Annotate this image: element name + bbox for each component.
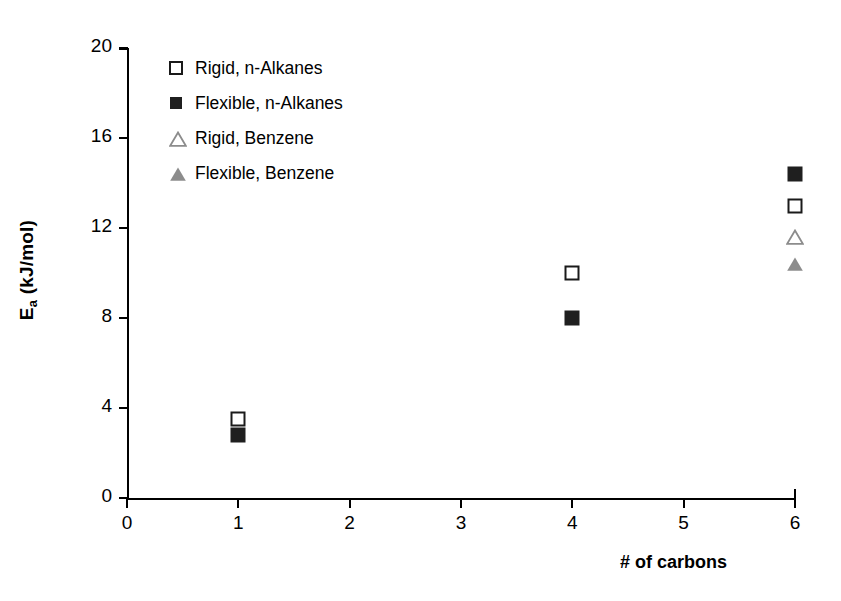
open-triangle-marker bbox=[169, 131, 184, 144]
open-triangle-marker bbox=[786, 229, 804, 245]
data-point bbox=[788, 167, 803, 182]
y-axis-tick: 4 bbox=[119, 407, 128, 409]
x-axis-tick: 4 bbox=[571, 498, 573, 508]
legend-marker-swatch bbox=[166, 128, 186, 148]
filled-square-marker bbox=[788, 167, 803, 182]
open-square-marker bbox=[565, 266, 580, 281]
legend-item: Flexible, n-Alkanes bbox=[166, 85, 426, 120]
x-axis-tick: 5 bbox=[683, 498, 685, 508]
filled-triangle-marker bbox=[169, 166, 184, 179]
x-axis-tick-label: 2 bbox=[339, 512, 361, 534]
filled-square-marker bbox=[170, 97, 182, 109]
y-axis-tick: 20 bbox=[119, 47, 128, 49]
open-square-marker bbox=[231, 412, 246, 427]
data-point bbox=[788, 198, 803, 213]
x-axis-tick: 2 bbox=[349, 498, 351, 508]
y-axis-title-unit: (kJ/mol) bbox=[16, 220, 37, 300]
legend-item-label: Rigid, n-Alkanes bbox=[195, 58, 322, 78]
legend-item: Rigid, Benzene bbox=[166, 120, 426, 155]
x-axis-tick-label: 3 bbox=[450, 512, 472, 534]
y-axis-tick-label: 20 bbox=[91, 35, 112, 57]
x-axis-title: # of carbons bbox=[620, 552, 727, 573]
filled-square-marker bbox=[231, 428, 246, 443]
x-axis-tick-label: 6 bbox=[784, 512, 806, 534]
y-axis-title-base: E bbox=[16, 307, 37, 320]
x-axis-tick: 3 bbox=[460, 498, 462, 508]
x-axis-tick-label: 5 bbox=[673, 512, 695, 534]
y-axis-tick-label: 8 bbox=[101, 305, 112, 327]
y-axis-tick-label: 4 bbox=[101, 395, 112, 417]
legend-marker-swatch bbox=[166, 163, 186, 183]
filled-triangle-marker bbox=[786, 256, 804, 272]
open-square-marker bbox=[169, 61, 183, 75]
filled-square-marker bbox=[565, 311, 580, 326]
scatter-chart-figure: Ea (kJ/mol) # of carbons 048121620 01234… bbox=[0, 0, 841, 601]
x-axis-tick-label: 0 bbox=[116, 512, 138, 534]
legend-item: Rigid, n-Alkanes bbox=[166, 50, 426, 85]
data-point bbox=[231, 412, 246, 427]
y-axis-tick: 16 bbox=[119, 137, 128, 139]
data-point bbox=[565, 311, 580, 326]
y-axis-tick-label: 16 bbox=[91, 125, 112, 147]
data-point bbox=[786, 229, 804, 245]
legend-item-label: Flexible, n-Alkanes bbox=[195, 93, 343, 113]
x-axis-tick: 0 bbox=[126, 498, 128, 508]
data-point bbox=[786, 256, 804, 272]
chart-legend: Rigid, n-AlkanesFlexible, n-AlkanesRigid… bbox=[166, 50, 426, 190]
y-axis-title-subscript: a bbox=[25, 300, 40, 307]
y-axis-tick-label: 12 bbox=[91, 215, 112, 237]
y-axis-line bbox=[127, 48, 129, 500]
x-axis-tick-label: 1 bbox=[227, 512, 249, 534]
x-axis-tick-label: 4 bbox=[561, 512, 583, 534]
open-square-marker bbox=[788, 198, 803, 213]
x-axis-tick: 6 bbox=[794, 498, 796, 508]
y-axis-tick: 8 bbox=[119, 317, 128, 319]
legend-marker-swatch bbox=[166, 93, 186, 113]
legend-item-label: Rigid, Benzene bbox=[195, 128, 314, 148]
legend-marker-swatch bbox=[166, 58, 186, 78]
y-axis-tick-label: 0 bbox=[101, 485, 112, 507]
legend-item-label: Flexible, Benzene bbox=[195, 163, 334, 183]
x-axis-tick: 1 bbox=[237, 498, 239, 508]
legend-item: Flexible, Benzene bbox=[166, 155, 426, 190]
data-point bbox=[565, 266, 580, 281]
y-axis-tick: 12 bbox=[119, 227, 128, 229]
y-axis-title: Ea (kJ/mol) bbox=[16, 180, 40, 360]
data-point bbox=[231, 428, 246, 443]
